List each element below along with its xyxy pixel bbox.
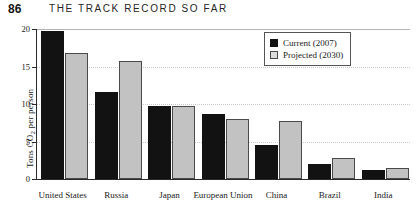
chart-legend: Current (2007) Projected (2030) bbox=[264, 32, 351, 66]
tick-mark-5 bbox=[32, 142, 36, 143]
tick-mark-20 bbox=[32, 29, 36, 30]
y-tick-label-0: 0 bbox=[26, 174, 30, 184]
bar-projected bbox=[119, 61, 142, 179]
legend-label-projected: Projected (2030) bbox=[283, 50, 343, 60]
legend-item-current: Current (2007) bbox=[270, 37, 343, 49]
bar-group bbox=[362, 29, 409, 179]
y-tick-label-10: 10 bbox=[22, 99, 31, 109]
x-axis-line bbox=[36, 179, 410, 180]
legend-label-current: Current (2007) bbox=[283, 38, 337, 48]
y-tick-label-15: 15 bbox=[22, 62, 31, 72]
gray-square-icon bbox=[270, 51, 278, 59]
page-header: 86 THE TRACK RECORD SO FAR bbox=[0, 0, 417, 22]
plot-area: 05101520 United StatesRussiaJapanEuropea… bbox=[36, 29, 410, 180]
bar-projected bbox=[172, 106, 195, 179]
bar-group bbox=[202, 29, 249, 179]
bar-projected bbox=[332, 158, 355, 179]
bar-projected bbox=[279, 121, 302, 179]
tick-mark-15 bbox=[32, 67, 36, 68]
bar-projected bbox=[65, 53, 88, 179]
tick-mark-10 bbox=[32, 104, 36, 105]
bar-group bbox=[41, 29, 88, 179]
bar-group bbox=[148, 29, 195, 179]
y-axis-label-suffix: per person bbox=[25, 89, 35, 131]
bar-current bbox=[202, 114, 225, 179]
bar-current bbox=[255, 145, 278, 180]
bar-chart: Tons CO2 per person 05101520 United Stat… bbox=[0, 22, 417, 218]
bar-current bbox=[41, 31, 64, 179]
bar-current bbox=[148, 106, 171, 179]
tick-mark-0 bbox=[32, 179, 36, 180]
bar-group bbox=[95, 29, 142, 179]
bar-projected bbox=[226, 119, 249, 179]
x-axis-label-india: India bbox=[351, 190, 416, 201]
running-head-title: THE TRACK RECORD SO FAR bbox=[49, 3, 228, 14]
legend-item-projected: Projected (2030) bbox=[270, 49, 343, 61]
bar-current bbox=[362, 170, 385, 179]
y-tick-label-5: 5 bbox=[26, 137, 30, 147]
bar-current bbox=[308, 164, 331, 179]
y-tick-label-20: 20 bbox=[22, 24, 31, 34]
black-square-icon bbox=[270, 39, 278, 47]
page-number: 86 bbox=[8, 2, 21, 16]
bar-projected bbox=[386, 168, 409, 179]
bar-current bbox=[95, 92, 118, 179]
